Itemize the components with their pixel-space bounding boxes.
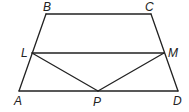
point-label-m: M	[168, 46, 178, 60]
point-label-d: D	[173, 94, 182, 108]
point-label-c: C	[145, 0, 154, 14]
segment-mp	[98, 53, 164, 91]
point-label-b: B	[43, 0, 51, 14]
point-label-l: L	[21, 46, 28, 60]
trapezoid-diagram: ABCDLMP	[0, 0, 189, 112]
point-label-p: P	[93, 95, 101, 109]
segments-group	[19, 14, 178, 91]
labels-group: ABCDLMP	[13, 0, 182, 109]
point-label-a: A	[13, 94, 22, 108]
segment-lp	[32, 53, 98, 91]
